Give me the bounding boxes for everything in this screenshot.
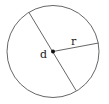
circle-diagram: r d <box>0 0 109 104</box>
radius-label: r <box>71 35 77 48</box>
diameter-label: d <box>40 48 47 61</box>
center-point <box>51 50 55 54</box>
